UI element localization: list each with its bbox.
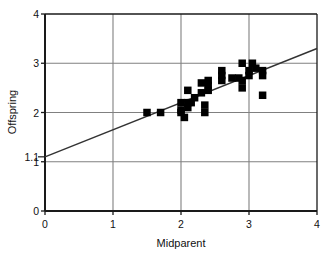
y-axis-title: Offspring [7,90,18,134]
scatter-plot-figure: 01234 01234 1.1 Midparent Offspring [0,0,334,264]
y-tick-label: 4 [23,9,39,20]
x-tick-label: 0 [42,219,48,230]
x-tick-label: 3 [246,219,252,230]
x-tick-label: 2 [178,219,184,230]
y-tick-label: 0 [23,206,39,217]
y-tick-label: 2 [23,107,39,118]
x-axis-title: Midparent [157,238,206,249]
x-tick-label: 1 [110,219,116,230]
x-tick-label: 4 [314,219,320,230]
plot-canvas [0,0,334,264]
data-points [143,60,266,122]
y-tick-label: 3 [23,58,39,69]
y-intercept-annotation-label: 1.1 [11,152,39,163]
